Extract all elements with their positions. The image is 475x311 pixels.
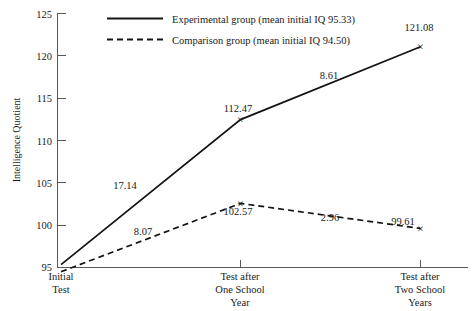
x-cat0-line0: Initial [48, 271, 73, 282]
series-group [61, 47, 421, 272]
x-cat1-line0: Test after [220, 271, 260, 282]
y-tick-label-115: 115 [37, 93, 52, 104]
x-tick-marks [241, 260, 421, 268]
y-tick-label-105: 105 [36, 178, 52, 189]
marker-comparison-2: × [417, 222, 424, 236]
x-category-label-0: Initial Test [48, 271, 73, 295]
gain-label-experimental-first: 17.14 [113, 180, 137, 191]
point-label-comparison-mid: 102.57 [224, 206, 253, 217]
x-category-label-2: Test after Two School Years [395, 271, 445, 308]
iq-growth-line-chart: 125 120 115 110 105 100 95 Intelligence … [0, 0, 475, 311]
point-label-comparison-end: 99.61 [391, 216, 415, 227]
y-tick-label-120: 120 [36, 51, 52, 62]
legend: Experimental group (mean initial IQ 95.3… [107, 14, 356, 47]
y-tick-marks [58, 14, 67, 226]
x-cat1-line1: One School [215, 284, 264, 295]
point-value-labels: 112.47 121.08 102.57 99.61 [224, 22, 434, 227]
legend-label-experimental: Experimental group (mean initial IQ 95.3… [172, 14, 356, 26]
axis-group [57, 13, 468, 268]
x-cat2-line2: Years [408, 297, 431, 308]
gain-label-comparison-first: 8.07 [134, 226, 152, 237]
x-cat2-line0: Test after [400, 271, 440, 282]
y-tick-labels: 125 120 115 110 105 100 95 [36, 9, 52, 274]
legend-entry-experimental[interactable]: Experimental group (mean initial IQ 95.3… [107, 14, 356, 26]
x-category-label-1: Test after One School Year [215, 271, 264, 308]
y-tick-label-100: 100 [36, 220, 52, 231]
legend-entry-comparison[interactable]: Comparison group (mean initial IQ 94.50) [107, 35, 350, 47]
marker-experimental-2: × [417, 40, 424, 54]
x-category-labels: Initial Test Test after One School Year … [48, 271, 445, 308]
x-cat1-line2: Year [230, 297, 250, 308]
marker-experimental-1: × [237, 113, 244, 127]
y-tick-label-110: 110 [37, 136, 52, 147]
point-label-experimental-mid: 112.47 [224, 103, 253, 114]
x-cat0-line1: Test [52, 284, 69, 295]
gain-label-comparison-second: 2.96 [321, 212, 339, 223]
y-axis-title: Intelligence Quotient [11, 97, 22, 182]
point-label-experimental-end: 121.08 [405, 22, 434, 33]
series-line-experimental [61, 47, 421, 265]
x-cat2-line1: Two School [395, 284, 445, 295]
chart-canvas: 125 120 115 110 105 100 95 Intelligence … [0, 0, 475, 311]
gain-label-experimental-second: 8.61 [320, 70, 338, 81]
legend-label-comparison: Comparison group (mean initial IQ 94.50) [172, 35, 350, 47]
y-tick-label-125: 125 [36, 9, 52, 20]
